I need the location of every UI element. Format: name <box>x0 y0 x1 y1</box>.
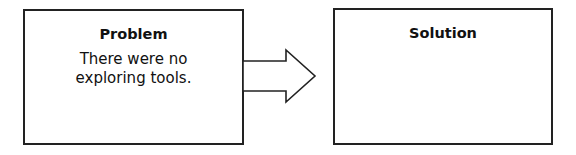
problem-box: Problem There were no exploring tools. <box>23 9 244 145</box>
problem-line-1: There were no <box>25 50 242 69</box>
problem-description: There were no exploring tools. <box>25 50 242 88</box>
right-arrow-icon <box>243 48 319 106</box>
solution-title: Solution <box>335 24 551 42</box>
problem-title: Problem <box>25 25 242 43</box>
solution-box: Solution <box>333 8 553 145</box>
problem-line-2: exploring tools. <box>25 69 242 88</box>
